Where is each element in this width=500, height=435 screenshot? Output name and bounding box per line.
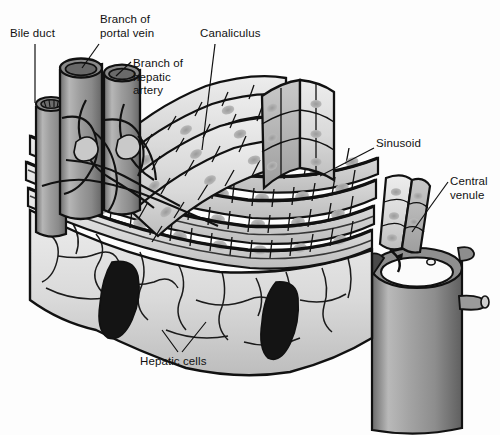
label-branch-portal-vein: Branch of portal vein (100, 13, 154, 40)
label-hepatic-cells: Hepatic cells (140, 355, 207, 369)
detached-cell-plate (380, 175, 430, 252)
label-bile-duct: Bile duct (10, 27, 55, 41)
liver-lobule-diagram (0, 0, 500, 435)
label-central-venule: Central venule (450, 175, 488, 202)
figure-canvas: Bile duct Branch of portal vein Branch o… (0, 0, 500, 435)
label-canaliculus: Canaliculus (200, 27, 261, 41)
label-branch-hepatic-artery: Branch of hepatic artery (133, 57, 183, 98)
label-sinusoid: Sinusoid (376, 137, 421, 151)
